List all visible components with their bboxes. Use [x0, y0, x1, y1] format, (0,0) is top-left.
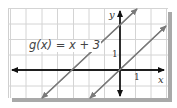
grid-lines: [8, 8, 168, 98]
x-tick-label: 1: [134, 73, 140, 82]
y-axis-label: y: [109, 10, 115, 20]
coordinate-plane: [0, 0, 177, 108]
function-label: g(x) = x + 3: [28, 40, 101, 52]
x-axis-label: x: [158, 75, 164, 85]
y-tick-label: 1: [112, 50, 118, 59]
line-f-x: [90, 26, 166, 98]
